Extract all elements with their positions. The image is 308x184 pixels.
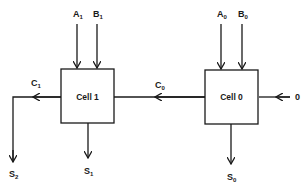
s2-label: S2 (9, 169, 19, 180)
s1-label: S1 (84, 166, 94, 177)
carry-in-label: 0 (295, 92, 300, 102)
c1-line (13, 97, 61, 162)
a0-label: A0 (217, 9, 228, 20)
s0-label: S0 (227, 172, 237, 183)
cell-1-label: Cell 1 (76, 92, 99, 102)
adder-diagram: Cell 1 Cell 0 A1 B1 A0 B0 0 C0 C1 S2 S1 … (0, 0, 308, 184)
cell-0-label: Cell 0 (220, 92, 243, 102)
a1-label: A1 (73, 9, 84, 20)
cell-0: Cell 0 (205, 70, 258, 124)
b1-label: B1 (93, 9, 104, 20)
cell-1: Cell 1 (61, 69, 114, 123)
b0-label: B0 (238, 9, 249, 20)
c1-label: C1 (31, 78, 42, 89)
c0-label: C0 (155, 80, 166, 91)
